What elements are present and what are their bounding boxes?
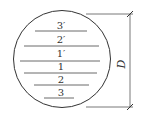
layer-label: 1 [58,61,64,72]
layer-label: 2′ [57,34,66,45]
layer-label: 1′ [57,48,66,59]
layer-label: 3 [58,87,64,98]
layer-label: 3′ [57,20,66,31]
dimension-label: D [115,59,128,69]
cross-section-diagram: 3′ 2′ 1′ 1 2 3 D [0,0,147,120]
layer-label: 2 [58,74,64,85]
